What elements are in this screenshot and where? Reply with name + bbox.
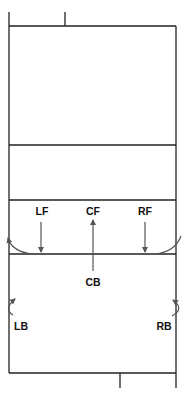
label-cb: CB	[85, 276, 101, 288]
right-front-curve-arrow-icon	[155, 236, 181, 254]
label-rf: RF	[138, 205, 153, 217]
left-front-curve-arrow-icon	[8, 238, 33, 254]
label-lb: LB	[14, 320, 28, 332]
court-diagram: LF CF RF CB LB RB	[0, 0, 189, 396]
label-rb: RB	[156, 320, 172, 332]
label-cf: CF	[86, 205, 101, 217]
label-lf: LF	[36, 205, 49, 217]
